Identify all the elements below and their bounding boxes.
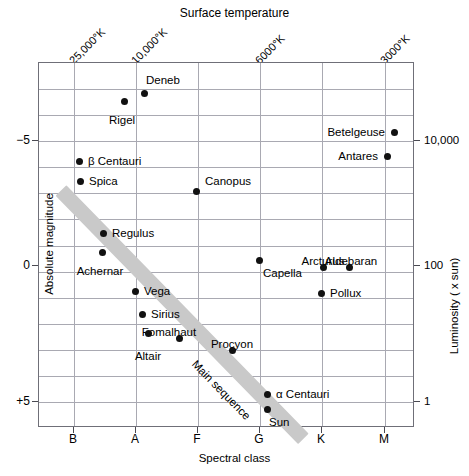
y-tick-label: 0 xyxy=(0,258,30,272)
star-label: Aldebaran xyxy=(325,255,377,267)
star-label: Achernar xyxy=(77,265,124,277)
star-label: α Centauri xyxy=(276,388,329,400)
star-label: Procyon xyxy=(211,338,253,350)
luminosity-tick-mark xyxy=(414,401,420,402)
y-tick-label: −5 xyxy=(0,133,30,147)
main-sequence-band xyxy=(56,185,309,443)
star-point[interactable] xyxy=(391,129,398,136)
star-label: Pollux xyxy=(330,287,361,299)
star-label: Capella xyxy=(263,267,302,279)
x-tick-label: B xyxy=(69,432,77,446)
star-point[interactable] xyxy=(132,288,139,295)
x-tick-label: K xyxy=(317,432,325,446)
star-point[interactable] xyxy=(384,153,391,160)
star-point[interactable] xyxy=(99,249,106,256)
star-point[interactable] xyxy=(121,98,128,105)
gridline-horizontal xyxy=(39,376,413,377)
x-tick-label: A xyxy=(131,432,139,446)
gridline-vertical xyxy=(385,63,386,426)
star-label: Antares xyxy=(338,150,378,162)
x-tick-label: M xyxy=(379,432,389,446)
plot-area: DenebRigelBetelgeuseAntaresβ CentauriSpi… xyxy=(38,62,414,427)
luminosity-tick-mark xyxy=(414,265,420,266)
luminosity-tick-label: 10,000 xyxy=(424,134,459,146)
star-label: Altair xyxy=(135,350,161,362)
star-point[interactable] xyxy=(264,406,271,413)
luminosity-tick-label: 1 xyxy=(424,395,430,407)
temperature-tick-label: 10,000°K xyxy=(129,26,170,67)
star-label: Regulus xyxy=(112,227,154,239)
star-label: Sun xyxy=(269,416,289,428)
y-tick-mark xyxy=(32,265,38,266)
y-axis-title-left: Absolute magnitude xyxy=(43,193,55,295)
star-label: Vega xyxy=(144,285,170,297)
x-tick-label: F xyxy=(193,432,200,446)
star-point[interactable] xyxy=(145,330,152,337)
x-axis-title: Spectral class xyxy=(0,452,469,464)
star-point[interactable] xyxy=(139,311,146,318)
luminosity-tick-label: 100 xyxy=(424,259,443,271)
luminosity-tick-mark xyxy=(414,140,420,141)
gridline-horizontal xyxy=(39,89,413,90)
y-tick-mark xyxy=(32,401,38,402)
star-label: Canopus xyxy=(205,175,251,187)
star-point[interactable] xyxy=(77,178,84,185)
star-label: Rigel xyxy=(109,114,135,126)
star-point[interactable] xyxy=(193,188,200,195)
star-point[interactable] xyxy=(264,391,271,398)
x-tick-label: G xyxy=(254,432,263,446)
star-label: Sirius xyxy=(151,308,180,320)
star-label: Spica xyxy=(89,175,118,187)
y-axis-title-right: Luminosity ( x sun) xyxy=(448,258,460,355)
gridline-vertical xyxy=(260,63,261,426)
y-tick-label: +5 xyxy=(0,394,30,408)
gridline-horizontal xyxy=(39,324,413,325)
gridline-horizontal xyxy=(39,115,413,116)
star-label: Betelgeuse xyxy=(327,126,385,138)
star-point[interactable] xyxy=(76,158,83,165)
star-point[interactable] xyxy=(256,257,263,264)
star-point[interactable] xyxy=(318,290,325,297)
y-tick-mark xyxy=(32,140,38,141)
temperature-tick-label: 25,000°K xyxy=(67,26,108,67)
gridline-horizontal xyxy=(39,141,413,142)
gridline-horizontal xyxy=(39,246,413,247)
star-label: β Centauri xyxy=(88,155,141,167)
gridline-vertical xyxy=(74,63,75,426)
gridline-vertical xyxy=(136,63,137,426)
star-point[interactable] xyxy=(141,90,148,97)
star-label: Deneb xyxy=(146,74,180,86)
hr-diagram-figure: Surface temperature 25,000°K10,000°K6000… xyxy=(0,0,469,476)
gridline-horizontal xyxy=(39,167,413,168)
gridline-vertical xyxy=(322,63,323,426)
star-point[interactable] xyxy=(100,230,107,237)
top-axis-title: Surface temperature xyxy=(0,6,469,20)
gridline-horizontal xyxy=(39,193,413,194)
